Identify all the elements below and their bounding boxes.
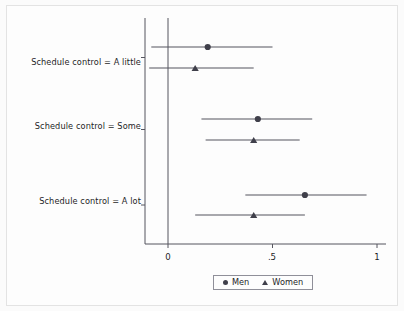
category-label-a-lot: Schedule control = A lot — [39, 196, 141, 206]
legend-item-men: Men — [223, 278, 249, 286]
legend: Men Women — [213, 275, 313, 290]
legend-label-women: Women — [272, 278, 303, 286]
x-tick-label-1: 1 — [367, 252, 387, 262]
point-marker-men-2 — [302, 192, 308, 198]
x-tick-label-point5: .5 — [262, 252, 282, 262]
point-marker-men-0 — [205, 44, 211, 50]
category-label-some: Schedule control = Some — [35, 121, 141, 131]
category-label-a-little: Schedule control = A little — [31, 57, 141, 67]
coefficient-plot — [0, 0, 404, 311]
x-tick-label-0: 0 — [158, 252, 178, 262]
circle-marker-icon — [223, 280, 228, 285]
triangle-marker-icon — [262, 280, 268, 285]
legend-label-men: Men — [232, 278, 249, 286]
figure-canvas: Schedule control = A little Schedule con… — [0, 0, 404, 311]
point-marker-men-1 — [255, 116, 261, 122]
legend-item-women: Women — [262, 278, 303, 286]
